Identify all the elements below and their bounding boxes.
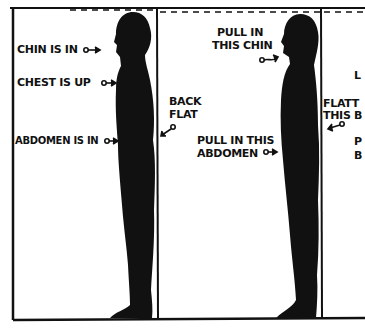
label-chin-is-in: CHIN IS IN [17, 44, 78, 56]
label-pull-in-abdomen-line1: PULL IN THIS [197, 135, 274, 147]
arrow-back-flat [161, 125, 175, 136]
arrow-abdomen-in [105, 138, 118, 144]
label-flat-line2: FLAT [169, 109, 198, 121]
arrow-pull-in-chin [260, 55, 278, 62]
label-back-line1: BACK [169, 96, 201, 108]
label-pull-in-chin-line1: PULL IN [217, 27, 263, 39]
arrow-chest-up [102, 80, 116, 86]
label-flatten-line2: THIS B [323, 110, 362, 122]
floor-line [13, 318, 365, 320]
wall-line-1 [157, 9, 158, 320]
label-pull-in-chin-line2: THIS CHIN [212, 40, 272, 52]
arrow-pull-in-abdomen [264, 149, 277, 155]
arrow-chin-in [84, 47, 100, 53]
arrow-flatten-back [328, 122, 344, 131]
label-chest-is-up: CHEST IS UP [17, 77, 91, 89]
label-pull-in-abdomen-line2: ABDOMEN [197, 148, 258, 160]
label-abdomen-is-in: ABDOMEN IS IN [15, 135, 98, 147]
silhouette-poor-posture [276, 14, 319, 318]
label-partial-bottom-line2: B [354, 150, 362, 162]
silhouette-good-posture [110, 12, 155, 318]
label-partial-top: L [354, 70, 361, 82]
label-partial-bottom-line1: P [354, 136, 362, 148]
posture-diagram: CHIN IS IN CHEST IS UP ABDOMEN IS IN BAC… [0, 0, 365, 334]
wall-line-2 [321, 9, 322, 318]
